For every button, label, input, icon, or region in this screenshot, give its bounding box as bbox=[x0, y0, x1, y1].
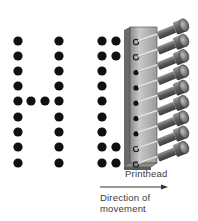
printhead-label: Printhead bbox=[125, 169, 167, 179]
printed-dot bbox=[111, 158, 120, 167]
printed-dot bbox=[54, 81, 63, 90]
printed-dot bbox=[97, 66, 106, 75]
printed-dot bbox=[13, 66, 22, 75]
printed-dot bbox=[26, 96, 35, 105]
printed-dot bbox=[13, 127, 22, 136]
printhead bbox=[124, 17, 191, 170]
printed-dot bbox=[54, 112, 63, 121]
printed-dot bbox=[97, 36, 106, 45]
printhead-diagram bbox=[0, 0, 198, 221]
partial-letter-dots bbox=[97, 36, 120, 167]
printed-dot bbox=[40, 96, 49, 105]
printed-dot bbox=[97, 142, 106, 151]
printed-dot bbox=[54, 158, 63, 167]
printed-dot bbox=[97, 158, 106, 167]
printed-dot bbox=[54, 36, 63, 45]
printed-dot bbox=[13, 36, 22, 45]
printed-dot bbox=[54, 127, 63, 136]
direction-label-line2: movement bbox=[100, 204, 146, 214]
printed-dot bbox=[111, 36, 120, 45]
direction-label-line1: Direction of bbox=[100, 193, 150, 203]
printed-dot bbox=[54, 51, 63, 60]
printed-dot bbox=[13, 96, 22, 105]
printed-dot bbox=[97, 81, 106, 90]
printed-dot bbox=[13, 51, 22, 60]
letter-h-dots bbox=[13, 36, 63, 167]
printed-dot bbox=[97, 112, 106, 121]
printed-dot bbox=[97, 51, 106, 60]
printed-dot bbox=[54, 66, 63, 75]
direction-arrow-icon bbox=[100, 185, 168, 190]
printed-dot bbox=[111, 51, 120, 60]
printed-dot bbox=[13, 81, 22, 90]
printed-dot bbox=[111, 142, 120, 151]
printed-dot bbox=[97, 96, 106, 105]
printed-dot bbox=[13, 112, 22, 121]
printed-dot bbox=[13, 142, 22, 151]
printed-dot bbox=[13, 158, 22, 167]
printed-dot bbox=[54, 142, 63, 151]
printed-dot bbox=[97, 127, 106, 136]
printed-dot bbox=[54, 96, 63, 105]
